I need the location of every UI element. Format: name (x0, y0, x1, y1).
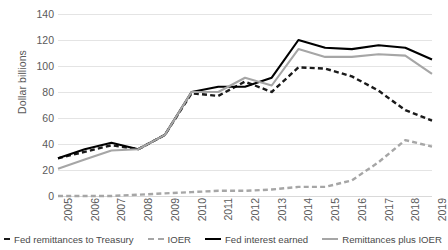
legend-item-1[interactable]: IOER (148, 234, 191, 245)
legend-item-2[interactable]: Fed interest earned (205, 234, 308, 245)
x-tick-2019: 2019 (436, 198, 448, 221)
gridline-0 (58, 196, 432, 197)
legend-label-3: Remittances plus IOER (342, 234, 442, 245)
x-tick-2018: 2018 (409, 198, 421, 221)
y-tick-40: 40 (24, 138, 54, 150)
legend-label-1: IOER (168, 234, 191, 245)
legend-swatch-icon-2 (205, 235, 221, 243)
x-tick-2011: 2011 (222, 198, 234, 221)
y-tick-100: 100 (24, 60, 54, 72)
series-lines (58, 14, 432, 196)
chart-legend: Fed remittances to TreasuryIOERFed inter… (0, 231, 436, 247)
legend-label-0: Fed remittances to Treasury (14, 234, 133, 245)
series-line-2 (58, 40, 432, 158)
legend-label-2: Fed interest earned (225, 234, 308, 245)
legend-item-3[interactable]: Remittances plus IOER (322, 234, 442, 245)
series-line-0 (58, 67, 432, 158)
series-line-3 (58, 49, 432, 169)
x-tick-2010: 2010 (196, 198, 208, 221)
x-tick-2007: 2007 (115, 198, 127, 221)
x-tick-2005: 2005 (62, 198, 74, 221)
x-tick-2017: 2017 (383, 198, 395, 221)
series-line-1 (58, 140, 432, 196)
legend-item-0[interactable]: Fed remittances to Treasury (0, 234, 134, 245)
plot-area (58, 14, 432, 196)
x-tick-2008: 2008 (142, 198, 154, 221)
x-tick-2014: 2014 (302, 198, 314, 221)
legend-swatch-icon-3 (322, 235, 338, 243)
y-tick-60: 60 (24, 112, 54, 124)
y-tick-120: 120 (24, 34, 54, 46)
legend-swatch-icon-1 (148, 235, 164, 243)
x-tick-2006: 2006 (89, 198, 101, 221)
x-tick-2013: 2013 (276, 198, 288, 221)
x-axis-tick-labels: 2005200620072008200920102011201220132014… (58, 198, 432, 232)
y-axis-tick-labels: 140120100806040200 (24, 0, 54, 210)
y-tick-0: 0 (24, 190, 54, 202)
y-tick-20: 20 (24, 164, 54, 176)
legend-swatch-icon-0 (0, 235, 10, 243)
x-tick-2012: 2012 (249, 198, 261, 221)
y-tick-80: 80 (24, 86, 54, 98)
y-tick-140: 140 (24, 8, 54, 20)
x-tick-2009: 2009 (169, 198, 181, 221)
x-tick-2016: 2016 (356, 198, 368, 221)
x-tick-2015: 2015 (329, 198, 341, 221)
